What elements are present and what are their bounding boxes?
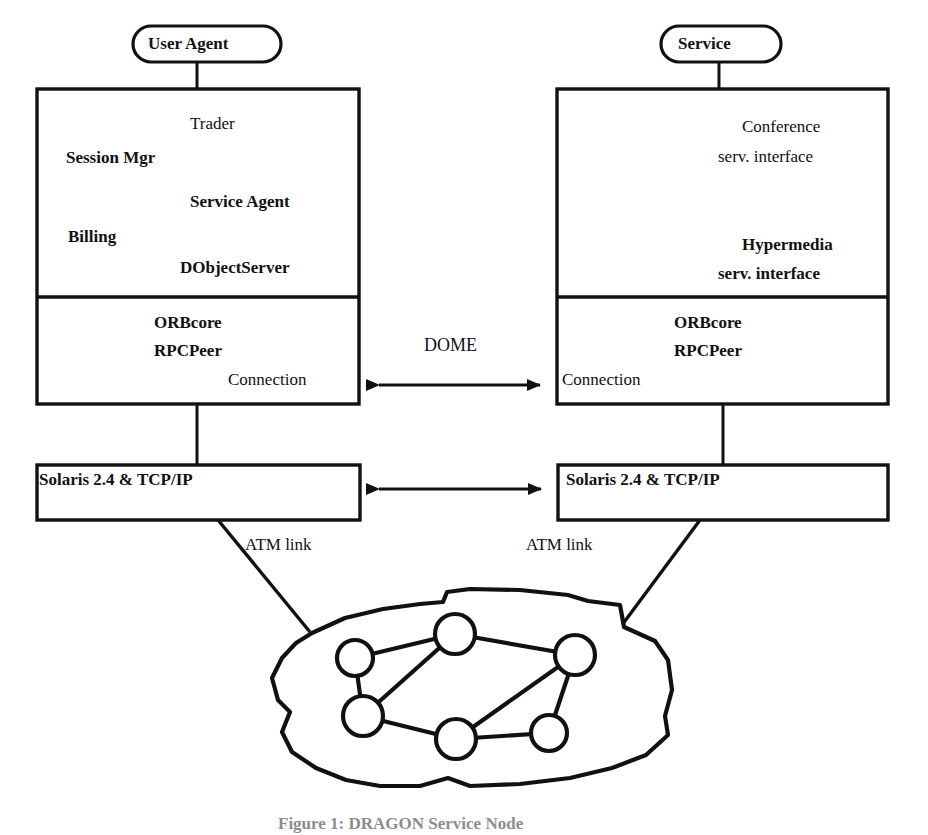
right-atm-link-line xyxy=(622,520,700,625)
left-component-billing: Billing xyxy=(68,228,116,245)
left-component-dobjectserver: DObjectServer xyxy=(180,259,290,276)
cloud-node xyxy=(343,696,383,736)
cloud-node xyxy=(531,715,567,751)
dome-label: DOME xyxy=(424,336,477,354)
cloud-node xyxy=(555,635,595,675)
left-atm-link-label: ATM link xyxy=(245,536,312,553)
right-middleware-connection: Connection xyxy=(562,371,640,388)
cloud-node xyxy=(435,614,475,654)
figure-caption: Figure 1: DRAGON Service Node xyxy=(278,814,523,834)
right-component-conference-interface: serv. interface xyxy=(718,148,813,165)
cloud-node xyxy=(436,719,476,759)
right-component-conference: Conference xyxy=(742,118,820,135)
left-middleware-orbcore: ORBcore xyxy=(154,314,222,331)
right-middleware-orbcore: ORBcore xyxy=(674,314,742,331)
right-middleware-rpcpeer: RPCPeer xyxy=(674,342,742,359)
cloud-node xyxy=(337,640,373,676)
left-component-session-mgr: Session Mgr xyxy=(66,149,155,166)
left-os-label: Solaris 2.4 & TCP/IP xyxy=(39,471,193,488)
left-component-service-agent: Service Agent xyxy=(190,193,290,210)
left-middleware-connection: Connection xyxy=(228,371,306,388)
right-node-title: Service xyxy=(678,35,731,52)
right-component-hypermedia: Hypermedia xyxy=(742,236,833,253)
left-node-title: User Agent xyxy=(148,35,228,52)
network-cloud-outline xyxy=(272,589,672,786)
figure-canvas: User Agent Service Trader Session Mgr Se… xyxy=(0,0,928,835)
left-middleware-rpcpeer: RPCPeer xyxy=(154,342,222,359)
left-component-trader: Trader xyxy=(190,115,235,132)
right-os-label: Solaris 2.4 & TCP/IP xyxy=(566,471,720,488)
right-component-hypermedia-interface: serv. interface xyxy=(718,265,820,282)
right-atm-link-label: ATM link xyxy=(526,536,593,553)
